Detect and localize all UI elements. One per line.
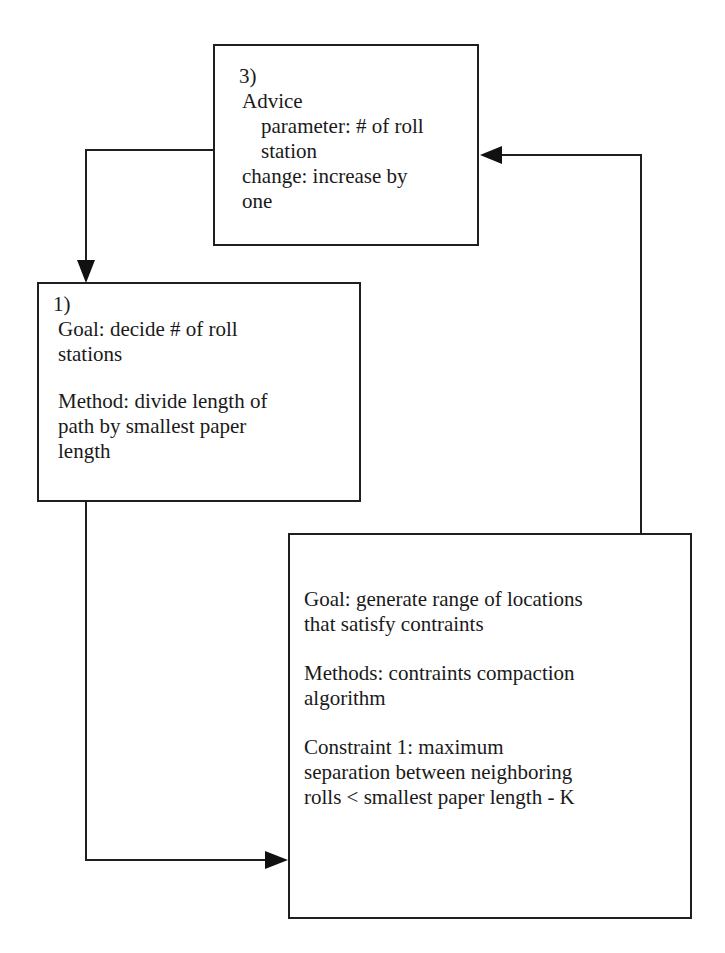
constraint-text: Constraint 1: maximum [304, 735, 690, 760]
generate-node: Goal: generate range of locations that s… [288, 533, 692, 919]
edge-generate-to-advice [480, 146, 641, 533]
edge-advice-to-decide [77, 150, 213, 283]
edge-decide-to-generate [86, 502, 288, 869]
spacer [304, 711, 690, 735]
decide-node: 1) Goal: decide # of roll stations Metho… [37, 282, 361, 502]
method-text-cont: path by smallest paper [53, 414, 359, 439]
arrowhead-right-icon [265, 851, 288, 869]
goal-text: Goal: decide # of roll [53, 317, 359, 342]
method-text: Method: divide length of [53, 389, 359, 414]
method-text: Methods: contraints compaction [304, 661, 690, 686]
advice-change: change: increase by [239, 164, 477, 189]
node-number: 3) [239, 64, 477, 89]
arrowhead-down-icon [77, 260, 95, 283]
goal-text-cont: that satisfy contraints [304, 612, 690, 637]
advice-heading: Advice [239, 89, 477, 114]
goal-text: Goal: generate range of locations [304, 587, 690, 612]
diagram-canvas: 3) Advice parameter: # of roll station c… [0, 0, 725, 953]
spacer [53, 367, 359, 389]
advice-change-cont: one [239, 189, 477, 214]
node-number: 1) [53, 292, 359, 317]
constraint-text-cont: rolls < smallest paper length - K [304, 785, 690, 810]
method-text-cont: algorithm [304, 686, 690, 711]
constraint-text-cont: separation between neighboring [304, 760, 690, 785]
advice-parameter: parameter: # of roll [239, 114, 477, 139]
method-text-cont: length [53, 439, 359, 464]
spacer [304, 637, 690, 661]
advice-parameter-cont: station [239, 139, 477, 164]
arrowhead-left-icon [480, 146, 502, 164]
advice-node: 3) Advice parameter: # of roll station c… [213, 44, 479, 246]
goal-text-cont: stations [53, 342, 359, 367]
